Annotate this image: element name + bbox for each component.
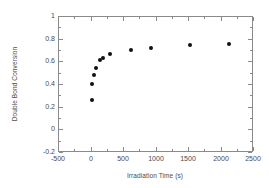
data-point	[129, 48, 133, 52]
x-axis-tick-label: 0	[89, 155, 93, 163]
data-point	[90, 98, 94, 102]
scatter-data-layer	[58, 16, 253, 152]
x-axis-tick-label: 1500	[180, 155, 196, 163]
x-axis-tick-label: 2500	[245, 155, 261, 163]
y-axis-tick-label: 0.4	[36, 80, 55, 88]
y-axis-tick-label: -0.2	[36, 148, 55, 156]
y-axis-tick-label: 0.8	[36, 35, 55, 43]
y-axis-tick-label: 0	[36, 125, 55, 133]
chart-figure: -50005001000150020002500-0.200.20.40.60.…	[0, 0, 269, 188]
y-axis-tick-label: 0.6	[36, 57, 55, 65]
y-axis-tick-label: 0.2	[36, 103, 55, 111]
x-axis-tick-label: -500	[51, 155, 65, 163]
data-point	[188, 43, 192, 47]
data-point	[90, 82, 94, 86]
y-axis-label: Double Bond Conversion	[11, 47, 18, 121]
x-axis-tick-top	[253, 17, 254, 21]
data-point	[94, 66, 98, 70]
x-axis-tick-label: 2000	[213, 155, 229, 163]
y-axis-tick	[59, 152, 63, 153]
x-axis-tick-label: 500	[117, 155, 129, 163]
x-axis-tick-label: 1000	[148, 155, 164, 163]
x-axis-label: Irradiation Time (s)	[127, 172, 183, 179]
x-axis-tick	[253, 147, 254, 151]
y-axis-tick-label: 1	[36, 12, 55, 20]
data-point	[227, 42, 231, 46]
data-point	[92, 73, 96, 77]
data-point	[149, 46, 153, 50]
data-point	[101, 56, 105, 60]
data-point	[108, 52, 112, 56]
y-axis-tick-right	[248, 152, 252, 153]
